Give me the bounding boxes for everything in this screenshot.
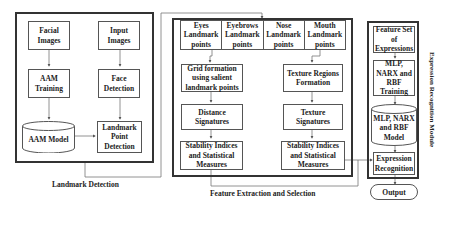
- landmark-groups-row: Eyes Landmark points Eyebrows Landmark p…: [180, 20, 346, 50]
- texture-regions-box: Texture Regions Formation: [283, 64, 343, 92]
- stability-indices-left-box: Stability Indices and Statistical Measur…: [180, 141, 243, 170]
- aam-model-database: AAM Model: [22, 121, 75, 153]
- landmark-point-detection-box: Landmark Point Detection: [97, 121, 142, 153]
- output-terminal: Output: [370, 184, 418, 200]
- mouth-landmark-box: Mouth Landmark points: [305, 21, 345, 49]
- grid-formation-box: Grid formation using salient landmark po…: [181, 64, 243, 92]
- expression-model-database: MLP, NARX and RBF Model: [371, 104, 417, 146]
- nose-landmark-box: Nose Landmark points: [264, 21, 305, 49]
- feature-set-box: Feature Set of Expressions: [373, 26, 415, 53]
- expression-model-label: MLP, NARX and RBF Model: [372, 114, 416, 142]
- aam-model-label: AAM Model: [22, 129, 75, 151]
- training-box: MLP, NARX and RBF Training: [373, 60, 415, 96]
- feature-extraction-title: Feature Extraction and Selection: [210, 189, 315, 198]
- aam-training-box: AAM Training: [28, 69, 70, 98]
- stability-indices-right-box: Stability Indices and Statistical Measur…: [281, 141, 345, 170]
- face-detection-box: Face Detection: [98, 69, 140, 98]
- eyebrows-landmark-box: Eyebrows Landmark points: [222, 21, 263, 49]
- distance-signatures-box: Distance Signatures: [181, 104, 243, 130]
- facial-images-box: Facial Images: [28, 21, 70, 50]
- eyes-landmark-box: Eyes Landmark points: [181, 21, 222, 49]
- expression-recognition-box: Expression Recognition: [373, 152, 415, 175]
- texture-signatures-box: Texture Signatures: [283, 104, 343, 130]
- landmark-detection-title: Landmark Detection: [52, 180, 119, 189]
- input-images-box: Input Images: [98, 21, 140, 50]
- expression-module-title: Expression Recognition Module: [428, 52, 436, 162]
